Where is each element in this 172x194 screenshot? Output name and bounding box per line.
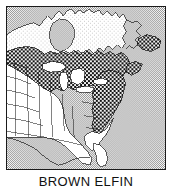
map-canvas (7, 7, 165, 169)
figure-caption: BROWN ELFIN (0, 174, 172, 190)
range-map-figure: BROWN ELFIN (0, 0, 172, 194)
map-frame (6, 6, 166, 170)
